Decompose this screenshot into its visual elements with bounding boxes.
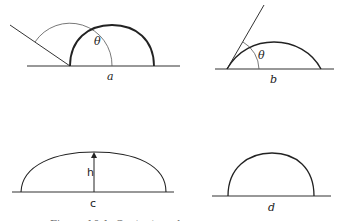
drop-profile-b	[227, 42, 321, 69]
panel-d: d	[212, 153, 331, 214]
panel-b: θ b	[215, 5, 334, 86]
drop-profile-d	[228, 153, 314, 196]
panel-label-c: c	[90, 197, 96, 210]
figure-caption: Figure 10.1. Contact angle	[50, 218, 186, 221]
theta-label-a: θ	[94, 35, 101, 48]
angle-arc-b	[243, 42, 259, 69]
panel-label-b: b	[270, 73, 277, 86]
panel-label-a: a	[107, 70, 114, 83]
height-label-c: h	[87, 166, 94, 179]
panel-label-d: d	[268, 201, 275, 214]
theta-label-b: θ	[258, 49, 265, 62]
panel-c: h c	[12, 152, 174, 210]
height-arrowhead-c	[91, 152, 97, 158]
tangent-line-a	[10, 25, 70, 66]
panel-a: θ a	[10, 23, 180, 83]
contact-angle-diagram: θ a θ b h c d Figure 10.1. Contact angle	[0, 0, 347, 221]
